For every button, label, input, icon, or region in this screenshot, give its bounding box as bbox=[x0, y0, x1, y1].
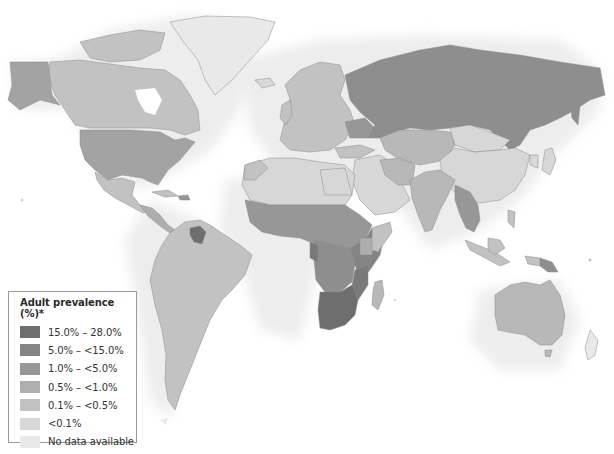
legend-item: 0.1% – <0.5% bbox=[20, 396, 136, 414]
region-somalia bbox=[372, 222, 392, 252]
island-mauritius bbox=[394, 299, 396, 301]
legend-item: <0.1% bbox=[20, 414, 136, 432]
region-madagascar bbox=[372, 280, 384, 310]
legend-item: 0.5% – <1.0% bbox=[20, 378, 136, 396]
legend-label: 15.0% – 28.0% bbox=[48, 327, 122, 338]
legend-label: 1.0% – <5.0% bbox=[48, 363, 117, 374]
legend-item: 1.0% – <5.0% bbox=[20, 360, 136, 378]
map-legend: Adult prevalence (%)* 15.0% – 28.0% 5.0%… bbox=[8, 291, 137, 443]
region-png bbox=[540, 258, 558, 272]
legend-swatch bbox=[20, 344, 40, 356]
legend-label: 0.1% – <0.5% bbox=[48, 400, 117, 411]
legend-label: 0.5% – <1.0% bbox=[48, 382, 117, 393]
region-philippines bbox=[508, 210, 515, 228]
legend-swatch bbox=[20, 326, 40, 338]
legend-swatch bbox=[20, 399, 40, 411]
region-indonesia bbox=[465, 240, 510, 266]
region-south-america bbox=[150, 220, 252, 410]
legend-item: 5.0% – <15.0% bbox=[20, 341, 136, 359]
region-west-papua bbox=[525, 256, 540, 266]
legend-swatch bbox=[20, 363, 40, 375]
legend-label: No data available bbox=[48, 436, 134, 447]
region-central-africa bbox=[314, 240, 355, 292]
legend-item: 15.0% – 28.0% bbox=[20, 323, 136, 341]
legend-swatch bbox=[20, 436, 40, 448]
region-haiti bbox=[178, 195, 190, 200]
legend-swatch bbox=[20, 381, 40, 393]
legend-label: 5.0% – <15.0% bbox=[48, 345, 124, 356]
island-pacific bbox=[589, 259, 592, 262]
island-hawaii bbox=[21, 199, 24, 202]
island-falklands bbox=[160, 418, 168, 425]
region-southern-africa bbox=[318, 285, 358, 330]
region-new-zealand bbox=[585, 330, 598, 360]
legend-label: <0.1% bbox=[48, 418, 81, 429]
legend-title: Adult prevalence (%)* bbox=[20, 297, 136, 319]
legend-item: No data available bbox=[20, 433, 136, 451]
region-caribbean bbox=[152, 190, 178, 197]
legend-swatch bbox=[20, 418, 40, 430]
